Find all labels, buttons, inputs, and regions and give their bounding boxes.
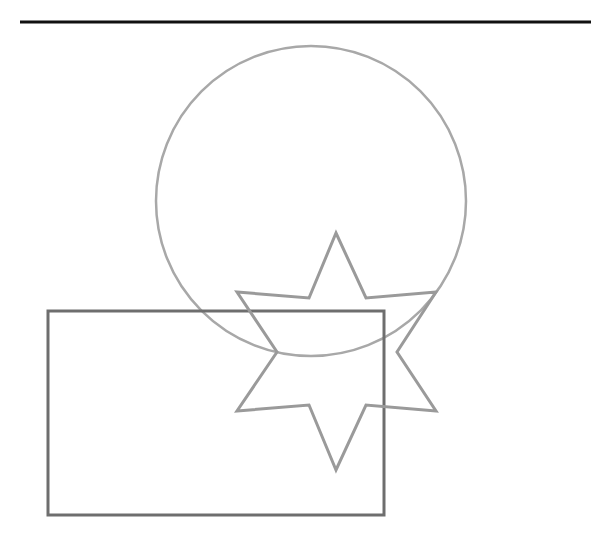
- shapes-drawing: [0, 0, 591, 538]
- six-pointed-star-shape: [237, 233, 436, 470]
- rectangle-shape: [48, 311, 384, 515]
- drawing-canvas: [0, 0, 591, 538]
